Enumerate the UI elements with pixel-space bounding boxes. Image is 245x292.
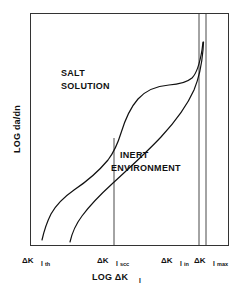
- annotation-inert-environment: INERT ENVIRONMENT: [111, 150, 181, 173]
- x-axis-title-subscript: I: [139, 277, 141, 284]
- xtick-kiin-sub: in: [184, 261, 190, 267]
- annotation-inert-line2: ENVIRONMENT: [111, 163, 181, 173]
- x-axis-title-text: LOG ΔK: [92, 272, 128, 282]
- inert-environment-curve: [70, 42, 204, 242]
- xtick-kith-sub: th: [45, 261, 51, 267]
- xtick-kith-symbol: ΔK: [22, 256, 34, 265]
- annotation-inert-line1: INERT: [120, 150, 149, 160]
- xtick-kiin-symbol: ΔK: [161, 256, 173, 265]
- xtick-kimax-sub: max: [217, 261, 229, 267]
- xtick-label-kiscc: ΔK I scc: [97, 256, 129, 267]
- xtick-kiin-roman: I: [180, 260, 182, 267]
- annotation-salt-line1: SALT: [61, 68, 85, 78]
- xtick-kiscc-sub: scc: [120, 261, 129, 267]
- annotation-salt-line2: SOLUTION: [61, 81, 110, 91]
- xtick-kiscc-symbol: ΔK: [97, 256, 109, 265]
- xtick-kimax-roman: I: [213, 260, 215, 267]
- annotation-salt-solution: SALT SOLUTION: [61, 68, 110, 91]
- xtick-kimax-symbol: ΔK: [194, 256, 206, 265]
- fatigue-crack-growth-chart: LOG da/dn SALT SOLUTION INERT ENVIRONMEN…: [0, 0, 245, 292]
- xtick-label-kiin: ΔK I in: [161, 256, 190, 267]
- xtick-kith-roman: I: [41, 260, 43, 267]
- xtick-label-kith: ΔK I th: [22, 256, 51, 267]
- y-axis-title-text: LOG da/dn: [12, 105, 22, 153]
- xtick-label-kimax: ΔK I max: [194, 256, 229, 267]
- x-axis-title: LOG ΔK I: [92, 272, 141, 284]
- xtick-kiscc-roman: I: [116, 260, 118, 267]
- chart-canvas: LOG da/dn SALT SOLUTION INERT ENVIRONMEN…: [0, 0, 245, 292]
- y-axis-title: LOG da/dn: [12, 105, 22, 153]
